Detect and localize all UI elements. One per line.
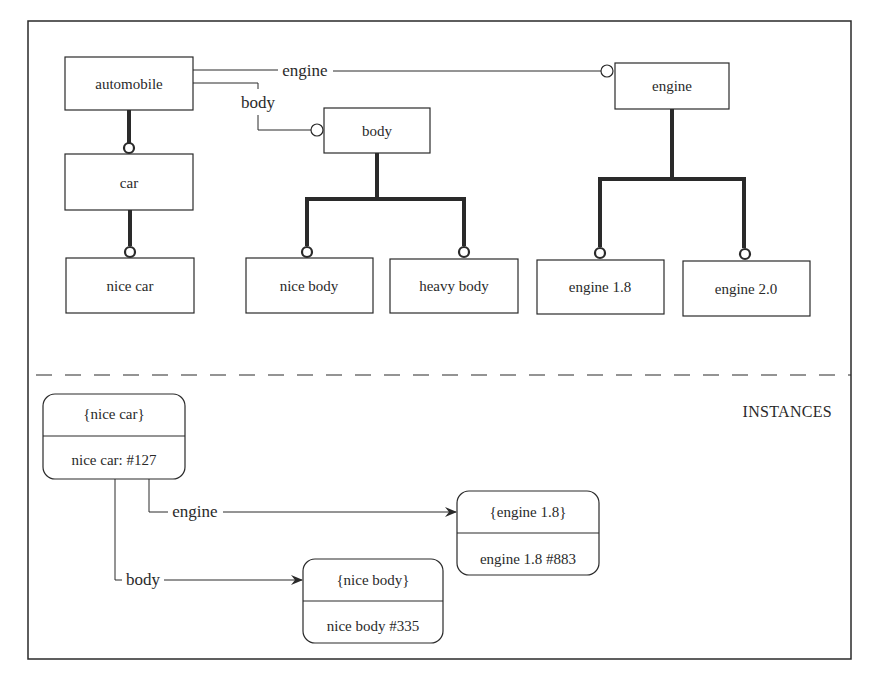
inheritance-circle-icon [459,247,469,257]
class-engine-1-8: engine 1.8 [537,260,664,314]
class-heavy-body-label: heavy body [419,278,489,294]
instance-nice-car: {nice car} nice car: #127 [43,394,185,479]
instances-section-label: INSTANCES [743,403,832,420]
association-automobile-body: body [193,83,323,136]
link-engine: engine [149,479,456,521]
class-car: car [65,154,193,210]
instance-nice-body: {nice body} nice body #335 [303,559,443,643]
link-body-label: body [126,570,161,589]
instance-nice-body-type: {nice body} [336,572,409,588]
inheritance-circle-icon [595,248,605,258]
inheritance-circle-icon [125,247,135,257]
inheritance-circle-icon [124,143,134,153]
class-body-label: body [362,123,393,139]
instance-nice-car-value: nice car: #127 [72,452,157,468]
inheritance-engine-subclasses [595,109,750,259]
inheritance-circle-icon [740,249,750,259]
instance-engine-1-8-value: engine 1.8 #883 [480,551,576,567]
class-nice-body: nice body [246,258,373,313]
class-body: body [324,108,430,153]
link-engine-label: engine [172,502,217,521]
instance-engine-1-8-type: {engine 1.8} [490,504,567,520]
association-circle-icon [601,65,613,77]
association-circle-icon [311,124,323,136]
class-automobile-label: automobile [95,76,163,92]
class-engine-1-8-label: engine 1.8 [569,279,631,295]
association-automobile-engine: engine [193,61,613,80]
instance-nice-body-value: nice body #335 [327,618,419,634]
class-automobile: automobile [65,57,193,110]
association-body-label: body [241,93,276,112]
class-engine-2-0: engine 2.0 [683,261,810,316]
class-engine-label: engine [652,78,692,94]
class-nice-car: nice car [66,258,194,313]
inheritance-automobile-car [124,110,134,153]
association-engine-label: engine [282,61,327,80]
class-engine-2-0-label: engine 2.0 [715,281,777,297]
class-nice-car-label: nice car [106,278,153,294]
instance-nice-car-type: {nice car} [83,406,144,422]
instance-engine-1-8: {engine 1.8} engine 1.8 #883 [457,491,599,575]
class-nice-body-label: nice body [280,278,339,294]
class-heavy-body: heavy body [390,259,518,313]
inheritance-circle-icon [302,247,312,257]
inheritance-body-subclasses [302,153,469,257]
class-engine: engine [615,63,729,109]
class-car-label: car [120,175,138,191]
link-body: body [115,479,302,589]
diagram-canvas: automobile car nice car engine body body [0,0,887,686]
inheritance-car-nice-car [125,210,135,257]
